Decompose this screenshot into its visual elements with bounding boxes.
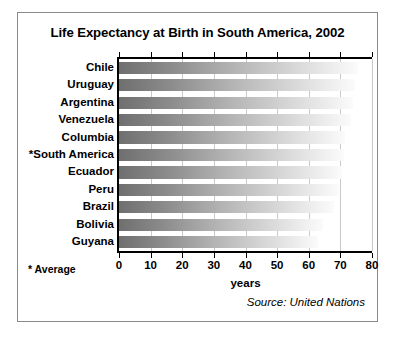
chart-figure: Life Expectancy at Birth in South Americ… <box>17 12 378 322</box>
x-tick-label: 60 <box>302 259 315 271</box>
category-axis: ChileUruguayArgentinaVenezuelaColumbia*S… <box>18 59 114 251</box>
x-tick-label: 30 <box>207 259 220 271</box>
category-label: Bolivia <box>76 218 114 230</box>
bar <box>119 236 318 248</box>
tick-mark-top <box>214 52 215 57</box>
tick-mark-bottom <box>246 253 247 258</box>
x-tick-label: 10 <box>144 259 157 271</box>
bar-row <box>119 62 372 74</box>
bar-row <box>119 219 372 231</box>
tick-mark-bottom <box>119 253 120 258</box>
bar <box>119 131 345 143</box>
category-label: Ecuador <box>68 165 114 177</box>
gridline <box>372 59 373 251</box>
x-tick-label: 40 <box>239 259 252 271</box>
x-tick-label: 20 <box>176 259 189 271</box>
bar-row <box>119 149 372 161</box>
tick-mark-top <box>182 52 183 57</box>
x-axis-title: years <box>230 277 260 289</box>
tick-mark-top <box>151 52 152 57</box>
x-tick-label: 70 <box>334 259 347 271</box>
category-label: Uruguay <box>67 78 114 90</box>
tick-mark-bottom <box>214 253 215 258</box>
chart-title: Life Expectancy at Birth in South Americ… <box>18 25 377 40</box>
bar-row <box>119 131 372 143</box>
category-label: *South America <box>29 148 114 160</box>
bar-row <box>119 184 372 196</box>
bar-row <box>119 97 372 109</box>
x-tick-label: 50 <box>271 259 284 271</box>
tick-mark-top <box>309 52 310 57</box>
bar-row <box>119 166 372 178</box>
tick-mark-bottom <box>372 253 373 258</box>
category-label: Peru <box>88 183 114 195</box>
x-tick-label: 80 <box>366 259 379 271</box>
category-label: Argentina <box>60 96 114 108</box>
x-tick-label: 0 <box>116 259 122 271</box>
bar-row <box>119 236 372 248</box>
category-label: Brazil <box>83 200 114 212</box>
tick-mark-top <box>246 52 247 57</box>
footnote-average: * Average <box>28 263 76 275</box>
category-label: Venezuela <box>58 113 114 125</box>
bar <box>119 79 355 91</box>
category-label: Guyana <box>72 235 114 247</box>
bar-row <box>119 79 372 91</box>
bar <box>119 114 351 126</box>
bar-row <box>119 114 372 126</box>
tick-mark-bottom <box>182 253 183 258</box>
bar <box>119 201 334 213</box>
tick-mark-top <box>340 52 341 57</box>
bar <box>119 149 344 161</box>
category-label: Columbia <box>62 131 114 143</box>
tick-mark-top <box>277 52 278 57</box>
category-label: Chile <box>86 61 114 73</box>
tick-mark-bottom <box>277 253 278 258</box>
bar <box>119 97 353 109</box>
bar <box>119 166 342 178</box>
plot-area: 01020304050607080 years <box>119 59 372 251</box>
bar-row <box>119 201 372 213</box>
bar <box>119 62 358 74</box>
tick-mark-bottom <box>340 253 341 258</box>
tick-mark-bottom <box>151 253 152 258</box>
bar <box>119 184 339 196</box>
tick-mark-bottom <box>309 253 310 258</box>
tick-mark-top <box>119 52 120 57</box>
source-attribution: Source: United Nations <box>247 296 365 308</box>
bar <box>119 219 323 231</box>
tick-mark-top <box>372 52 373 57</box>
